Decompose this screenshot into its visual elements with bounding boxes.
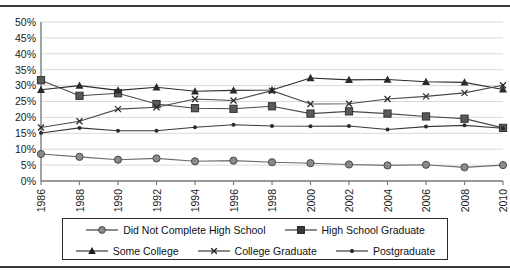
y-axis-tick-label: 5%	[21, 159, 36, 171]
legend-item[interactable]: Did Not Complete High School	[85, 224, 265, 236]
data-point-marker	[193, 125, 197, 129]
data-point-marker	[76, 153, 83, 160]
data-point-marker	[153, 83, 161, 90]
x-axis-tick-label: 1992	[151, 189, 163, 213]
data-point-marker	[270, 124, 274, 128]
x-axis-tick-label: 2006	[420, 189, 432, 213]
plot-area: 0%5%10%15%20%25%30%35%40%45%50%198619881…	[0, 10, 510, 215]
legend-marker-square-icon	[284, 224, 318, 236]
data-point-marker	[384, 162, 391, 169]
data-point-marker	[424, 125, 428, 129]
data-point-marker	[422, 161, 429, 168]
x-axis-tick-label: 1986	[35, 189, 47, 213]
y-axis-tick-label: 20%	[15, 111, 36, 123]
legend-marker-triangle-icon	[75, 245, 109, 257]
data-point-marker	[155, 129, 159, 133]
legend-row-1: Did Not Complete High SchoolHigh School …	[63, 219, 447, 240]
data-point-marker	[307, 74, 315, 81]
data-point-marker	[461, 164, 468, 171]
data-point-marker	[268, 159, 275, 166]
series-did-not-complete-high-school	[37, 150, 506, 171]
y-axis-tick-label: 30%	[15, 79, 36, 91]
data-point-marker	[268, 103, 275, 110]
data-point-marker	[78, 126, 82, 130]
top-divider-rule	[0, 5, 510, 7]
y-axis-tick-label: 25%	[15, 95, 36, 107]
data-point-marker	[307, 160, 314, 167]
data-point-marker	[230, 105, 237, 112]
legend-item[interactable]: High School Graduate	[284, 224, 425, 236]
legend-item-label: College Graduate	[235, 245, 317, 257]
y-axis-tick-label: 0%	[21, 175, 36, 187]
y-axis-tick-label: 10%	[15, 143, 36, 155]
legend-marker-circle-icon	[85, 224, 119, 236]
legend-box: Did Not Complete High SchoolHigh School …	[62, 218, 448, 260]
data-point-marker	[345, 161, 352, 168]
data-point-marker	[37, 77, 44, 84]
x-axis-tick-label: 2004	[382, 189, 394, 213]
data-point-marker	[114, 156, 121, 163]
data-point-marker	[309, 124, 313, 128]
x-axis-tick-label: 1994	[189, 189, 201, 213]
y-axis-tick-label: 40%	[15, 48, 36, 60]
line-chart-svg: 0%5%10%15%20%25%30%35%40%45%50%198619881…	[0, 10, 510, 215]
data-point-marker	[307, 110, 314, 117]
data-point-marker	[37, 150, 44, 157]
data-point-marker	[501, 126, 505, 130]
data-point-marker	[499, 162, 506, 169]
x-axis-tick-label: 1988	[74, 189, 86, 213]
x-axis-tick-label: 2008	[459, 189, 471, 213]
legend-item-label: Postgraduate	[373, 245, 435, 257]
data-point-marker	[116, 129, 120, 133]
legend-item-label: Some College	[113, 245, 179, 257]
data-point-marker	[384, 110, 391, 117]
data-point-marker	[232, 123, 236, 127]
data-point-marker	[461, 115, 468, 122]
y-axis-tick-label: 15%	[15, 127, 36, 139]
legend-row-2: Some CollegeCollege GraduatePostgraduate	[63, 240, 447, 261]
legend-item-label: High School Graduate	[322, 224, 425, 236]
legend: Did Not Complete High SchoolHigh School …	[0, 216, 510, 264]
x-axis-tick-label: 2000	[305, 189, 317, 213]
y-axis-tick-label: 50%	[15, 16, 36, 28]
legend-item[interactable]: College Graduate	[197, 245, 317, 257]
legend-item-label: Did Not Complete High School	[123, 224, 265, 236]
data-point-marker	[153, 155, 160, 162]
legend-marker-cross-icon	[197, 245, 231, 257]
x-axis-tick-label: 2010	[497, 189, 509, 213]
data-point-marker	[422, 113, 429, 120]
data-point-marker	[191, 158, 198, 165]
data-point-marker	[345, 108, 352, 115]
data-point-marker	[191, 105, 198, 112]
series-high-school-graduate	[37, 77, 506, 132]
data-point-marker	[347, 124, 351, 128]
legend-item[interactable]: Postgraduate	[335, 245, 435, 257]
data-point-marker	[39, 131, 43, 135]
legend-item[interactable]: Some College	[75, 245, 179, 257]
bottom-divider-rule	[0, 266, 510, 268]
y-axis-tick-label: 35%	[15, 64, 36, 76]
legend-marker-dot-icon	[335, 245, 369, 257]
data-point-marker	[76, 92, 83, 99]
x-axis-tick-label: 2002	[343, 189, 355, 213]
x-axis-tick-label: 1996	[228, 189, 240, 213]
y-axis-tick-label: 45%	[15, 32, 36, 44]
chart-figure: 0%5%10%15%20%25%30%35%40%45%50%198619881…	[0, 0, 510, 274]
data-point-marker	[386, 127, 390, 131]
data-point-marker	[463, 123, 467, 127]
x-axis-tick-label: 1990	[112, 189, 124, 213]
data-point-marker	[230, 157, 237, 164]
x-axis-tick-label: 1998	[266, 189, 278, 213]
